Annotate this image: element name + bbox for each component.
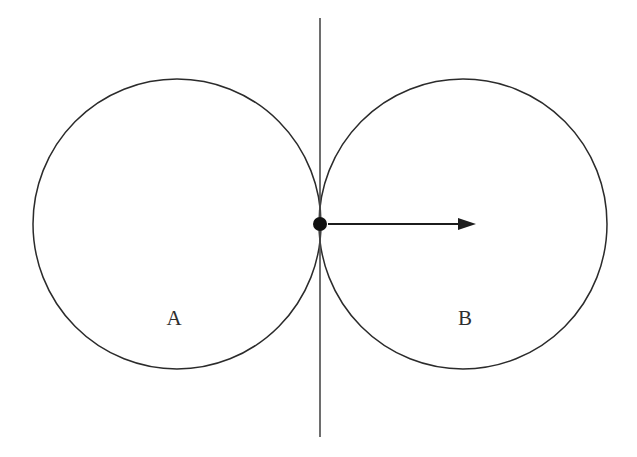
tangent-circles-diagram: A B	[0, 0, 637, 457]
label-region-b: B	[458, 306, 472, 330]
figure-canvas: A B	[0, 0, 637, 457]
label-region-a: A	[166, 306, 182, 330]
tangency-point-dot	[313, 217, 327, 231]
